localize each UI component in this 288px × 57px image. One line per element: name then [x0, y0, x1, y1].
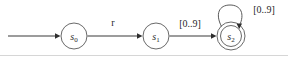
state-s1[interactable]: s1: [143, 23, 169, 49]
transition-s1-to-s2: [0..9]: [170, 18, 217, 39]
state-s0[interactable]: s0: [61, 23, 87, 49]
state-s2-subscript: 2: [231, 36, 235, 44]
transition-start-arrow: [8, 33, 61, 39]
fsa-diagram-canvas: s0 r s1 [0..9] s2: [0, 0, 288, 57]
s0-to-s1-arrow-head-icon: [137, 33, 143, 39]
state-s1-subscript: 1: [156, 36, 160, 44]
start-arrow-head-icon: [55, 33, 61, 39]
s0-to-s1-label: r: [111, 17, 115, 28]
state-s0-subscript: 0: [74, 36, 78, 44]
s1-to-s2-label: [0..9]: [179, 18, 201, 29]
s2-self-loop-label: [0..9]: [253, 4, 275, 15]
transition-s0-to-s1: r: [88, 17, 143, 39]
fsa-diagram-svg: s0 r s1 [0..9] s2: [0, 0, 288, 57]
s1-to-s2-arrow-head-icon: [211, 33, 217, 39]
